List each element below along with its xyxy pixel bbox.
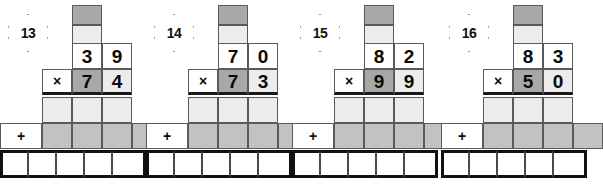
answer-cell[interactable] <box>146 150 174 178</box>
problem-number-badge: 15 <box>300 14 340 52</box>
answer-cell[interactable] <box>553 150 587 178</box>
multiplication-problem: 1683×50+ <box>441 0 589 187</box>
plus-operator-cell: + <box>441 123 483 149</box>
carry-box-lower[interactable] <box>72 25 102 44</box>
problem-number-badge: 14 <box>154 14 194 52</box>
multiplicand-tens-digit: 3 <box>72 43 102 69</box>
carry-box-upper[interactable] <box>218 5 248 25</box>
partial-product-1-cell[interactable] <box>483 97 513 123</box>
partial-product-1-cell[interactable] <box>248 97 278 123</box>
partial-product-1-cell[interactable] <box>513 97 543 123</box>
answer-cell[interactable] <box>84 150 112 178</box>
answer-cell[interactable] <box>320 150 348 178</box>
answer-cell[interactable] <box>174 150 202 178</box>
partial-product-2-cell[interactable] <box>334 123 364 149</box>
partial-product-1-cell[interactable] <box>102 97 132 123</box>
partial-product-2-cell[interactable] <box>188 123 218 149</box>
partial-product-2-cell[interactable] <box>364 123 394 149</box>
multiply-operator-cell: × <box>334 69 364 95</box>
multiplication-problem: 1470×73+ <box>146 0 294 187</box>
partial-product-2-cell[interactable] <box>248 123 278 149</box>
multiplier-tens-digit: 9 <box>364 69 394 95</box>
carry-box-upper[interactable] <box>364 5 394 25</box>
partial-product-1-cell[interactable] <box>218 97 248 123</box>
answer-cell[interactable] <box>441 150 469 178</box>
partial-product-1-cell[interactable] <box>543 97 573 123</box>
multiplicand-tens-digit: 8 <box>513 43 543 69</box>
answer-cell[interactable] <box>469 150 497 178</box>
problem-number-badge: 13 <box>8 14 48 52</box>
multiplier-tens-digit: 7 <box>218 69 248 95</box>
partial-product-2-cell[interactable] <box>394 123 424 149</box>
answer-cell[interactable] <box>230 150 258 178</box>
problem-number-label: 15 <box>300 14 340 52</box>
multiplier-tens-digit: 7 <box>72 69 102 95</box>
carry-box-upper[interactable] <box>513 5 543 25</box>
partial-product-1-cell[interactable] <box>364 97 394 123</box>
multiplier-ones-digit: 9 <box>394 69 424 95</box>
carry-box-lower[interactable] <box>218 25 248 44</box>
carry-box-lower[interactable] <box>513 25 543 44</box>
multiplicand-ones-digit: 0 <box>248 43 278 69</box>
answer-cell[interactable] <box>258 150 292 178</box>
carry-box-lower[interactable] <box>364 25 394 44</box>
multiplier-ones-digit: 0 <box>543 69 573 95</box>
partial-product-2-cell[interactable] <box>483 123 513 149</box>
partial-product-1-cell[interactable] <box>188 97 218 123</box>
multiplicand-ones-digit: 9 <box>102 43 132 69</box>
problem-number-badge: 16 <box>449 14 489 52</box>
answer-cell[interactable] <box>292 150 320 178</box>
partial-product-1-cell[interactable] <box>42 97 72 123</box>
problem-number-label: 16 <box>449 14 489 52</box>
multiplicand-ones-digit: 2 <box>394 43 424 69</box>
answer-cell[interactable] <box>202 150 230 178</box>
partial-product-2-cell[interactable] <box>543 123 573 149</box>
multiply-operator-cell: × <box>483 69 513 95</box>
answer-cell[interactable] <box>376 150 404 178</box>
multiplier-tens-digit: 5 <box>513 69 543 95</box>
partial-product-1-cell[interactable] <box>334 97 364 123</box>
answer-cell[interactable] <box>0 150 28 178</box>
multiply-operator-cell: × <box>188 69 218 95</box>
multiplicand-tens-digit: 7 <box>218 43 248 69</box>
problem-number-label: 13 <box>8 14 48 52</box>
partial-product-2-cell[interactable] <box>573 123 603 149</box>
answer-cell[interactable] <box>525 150 553 178</box>
answer-cell[interactable] <box>28 150 56 178</box>
problem-number-label: 14 <box>154 14 194 52</box>
multiply-operator-cell: × <box>42 69 72 95</box>
partial-product-2-cell[interactable] <box>72 123 102 149</box>
multiplicand-tens-digit: 8 <box>364 43 394 69</box>
answer-cell[interactable] <box>497 150 525 178</box>
answer-cell[interactable] <box>112 150 146 178</box>
plus-operator-cell: + <box>146 123 188 149</box>
partial-product-1-cell[interactable] <box>394 97 424 123</box>
partial-product-1-cell[interactable] <box>72 97 102 123</box>
plus-operator-cell: + <box>0 123 42 149</box>
partial-product-2-cell[interactable] <box>102 123 132 149</box>
partial-product-2-cell[interactable] <box>218 123 248 149</box>
carry-box-upper[interactable] <box>72 5 102 25</box>
multiplier-ones-digit: 4 <box>102 69 132 95</box>
answer-cell[interactable] <box>404 150 438 178</box>
partial-product-2-cell[interactable] <box>42 123 72 149</box>
answer-cell[interactable] <box>56 150 84 178</box>
answer-cell[interactable] <box>348 150 376 178</box>
multiplier-ones-digit: 3 <box>248 69 278 95</box>
plus-operator-cell: + <box>292 123 334 149</box>
multiplicand-ones-digit: 3 <box>543 43 573 69</box>
partial-product-2-cell[interactable] <box>513 123 543 149</box>
multiplication-problem: 1339×74+ <box>0 0 148 187</box>
multiplication-problem: 1582×99+ <box>292 0 440 187</box>
